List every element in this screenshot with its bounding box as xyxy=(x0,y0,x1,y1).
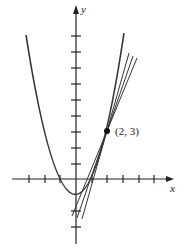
secant-line-3 xyxy=(72,58,137,216)
point-label: (2, 3) xyxy=(115,125,139,138)
y-axis xyxy=(71,5,81,244)
y-axis-label: y xyxy=(80,3,86,15)
x-axis-label: x xyxy=(169,182,175,194)
point-marker xyxy=(104,128,110,134)
y-axis-arrow-icon xyxy=(73,5,79,14)
parabola-secant-diagram: x y (2, 3) xyxy=(0,0,185,252)
parabola-curve xyxy=(26,33,124,195)
